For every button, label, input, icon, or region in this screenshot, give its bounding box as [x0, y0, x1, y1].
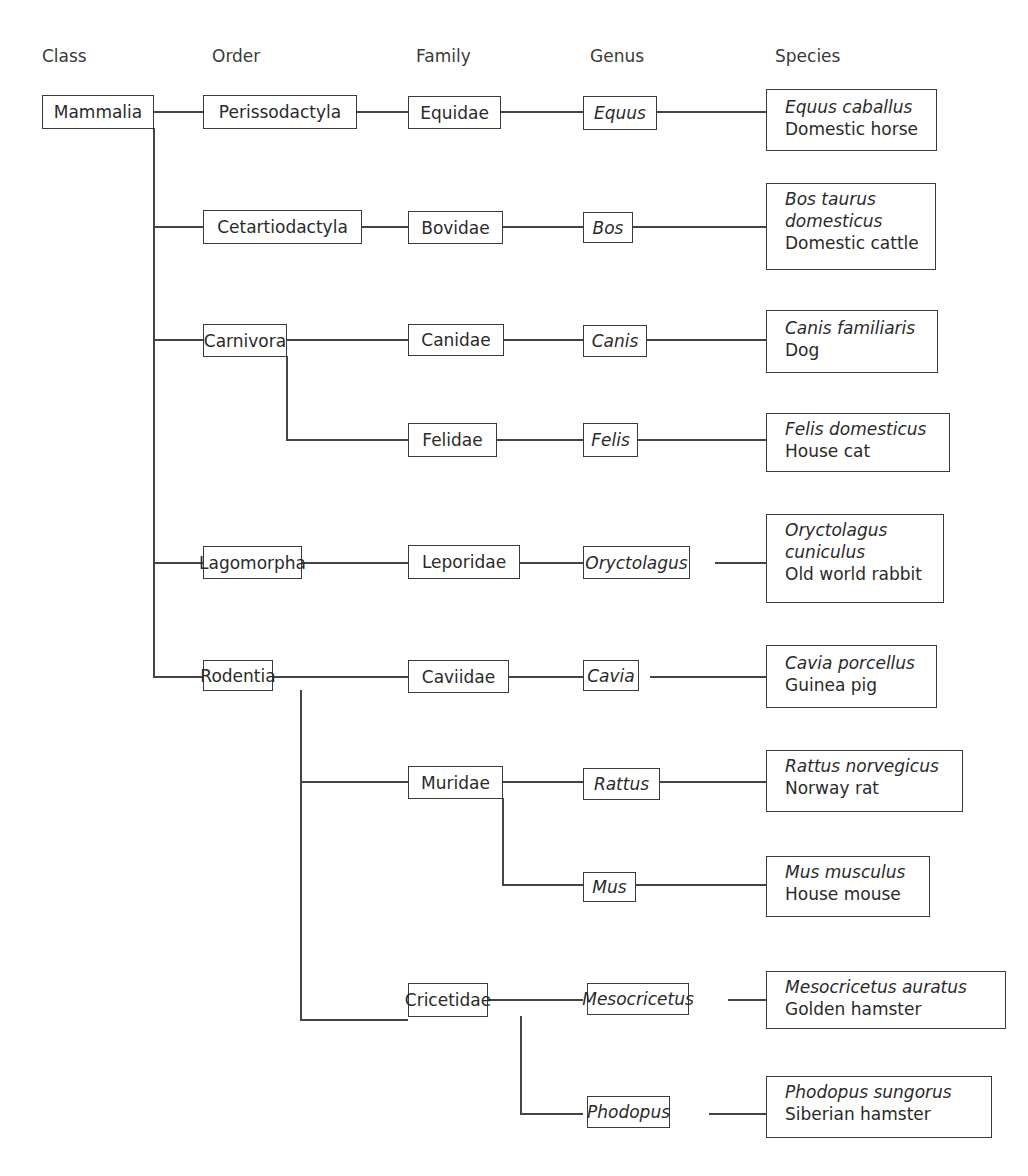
genus-node: Mus [583, 872, 636, 902]
connector [300, 781, 408, 783]
order-node: Cetartiodactyla [203, 210, 362, 244]
connector [502, 798, 504, 885]
connector [300, 1019, 408, 1021]
species-common-name: Dog [785, 339, 919, 361]
species-scientific-name: Equus caballus [785, 96, 918, 118]
connector [519, 562, 583, 564]
genus-label: Phodopus [587, 1101, 670, 1123]
species-node: Phodopus sungorus Siberian hamster [766, 1076, 992, 1138]
species-scientific-name: Bos taurus [785, 188, 917, 210]
species-scientific-name: Mus musculus [785, 861, 911, 883]
connector [635, 884, 766, 886]
header-order: Order [212, 46, 260, 66]
connector [301, 562, 408, 564]
family-node: Cricetidae [408, 983, 488, 1017]
class-node-mammalia: Mammalia [42, 95, 154, 129]
family-label: Caviidae [422, 666, 495, 688]
connector [300, 690, 302, 1020]
genus-label: Bos [593, 217, 624, 239]
order-label: Perissodactyla [219, 101, 341, 123]
family-node: Canidae [408, 324, 504, 356]
species-scientific-name: Canis familiaris [785, 317, 919, 339]
order-label: Carnivora [204, 330, 286, 352]
family-node: Felidae [408, 423, 497, 457]
family-node: Bovidae [408, 211, 503, 244]
connector [659, 781, 766, 783]
connector [656, 111, 766, 113]
genus-node: Equus [583, 96, 657, 130]
header-genus: Genus [590, 46, 644, 66]
family-label: Leporidae [422, 551, 506, 573]
genus-node: Phodopus [587, 1096, 670, 1128]
connector [503, 339, 583, 341]
connector [502, 781, 583, 783]
species-scientific-name: Phodopus sungorus [785, 1081, 973, 1103]
connector [520, 1113, 583, 1115]
genus-node: Oryctolagus [583, 546, 690, 579]
genus-node: Rattus [583, 768, 660, 800]
species-scientific-name: Cavia porcellus [785, 652, 918, 674]
genus-node: Bos [583, 212, 633, 243]
family-node: Equidae [408, 96, 501, 129]
connector [650, 676, 766, 678]
connector [153, 562, 203, 564]
family-node: Caviidae [408, 660, 509, 693]
connector [272, 676, 408, 678]
connector [728, 999, 766, 1001]
connector [153, 226, 203, 228]
species-scientific-name: Rattus norvegicus [785, 755, 944, 777]
species-common-name: Golden hamster [785, 998, 987, 1020]
family-label: Canidae [421, 329, 490, 351]
species-node: Rattus norvegicus Norway rat [766, 750, 963, 812]
species-common-name: Siberian hamster [785, 1103, 973, 1125]
species-scientific-name: Felis domesticus [785, 418, 931, 440]
genus-label: Oryctolagus [585, 552, 687, 574]
genus-label: Equus [594, 102, 646, 124]
family-label: Equidae [420, 102, 489, 124]
order-node: Carnivora [203, 324, 287, 357]
connector [361, 226, 408, 228]
species-node: Oryctolagus cuniculus Old world rabbit [766, 514, 944, 603]
species-node: Mus musculus House mouse [766, 856, 930, 917]
species-common-name: House mouse [785, 883, 911, 905]
species-common-name: Old world rabbit [785, 563, 925, 585]
species-node: Cavia porcellus Guinea pig [766, 645, 937, 708]
species-scientific-name: Oryctolagus [785, 519, 925, 541]
species-common-name: Domestic cattle [785, 232, 917, 254]
species-common-name: Domestic horse [785, 118, 918, 140]
species-node: Felis domesticus House cat [766, 413, 950, 472]
connector [520, 1016, 522, 1114]
family-node: Leporidae [408, 545, 520, 579]
species-scientific-name: Mesocricetus auratus [785, 976, 987, 998]
header-class: Class [42, 46, 87, 66]
family-label: Muridae [421, 772, 490, 794]
species-common-name: Guinea pig [785, 674, 918, 696]
header-family: Family [416, 46, 471, 66]
family-label: Felidae [422, 429, 482, 451]
genus-node: Canis [583, 325, 647, 357]
genus-label: Felis [591, 429, 630, 451]
connector [356, 111, 408, 113]
connector [286, 439, 408, 441]
connector [632, 226, 766, 228]
genus-node: Felis [583, 423, 638, 457]
order-label: Rodentia [200, 665, 275, 687]
species-scientific-name: domesticus [785, 210, 917, 232]
connector [709, 1113, 766, 1115]
connector [502, 226, 583, 228]
species-common-name: Norway rat [785, 777, 944, 799]
family-node: Muridae [408, 766, 503, 799]
species-scientific-name: cuniculus [785, 541, 925, 563]
order-label: Cetartiodactyla [217, 216, 348, 238]
connector [286, 356, 288, 440]
genus-node: Cavia [583, 660, 639, 691]
order-label: Lagomorpha [199, 552, 306, 574]
class-label: Mammalia [54, 101, 143, 123]
genus-label: Cavia [587, 665, 635, 687]
order-node: Perissodactyla [203, 95, 357, 129]
genus-label: Canis [592, 330, 639, 352]
connector-class-trunk [153, 128, 155, 678]
connector [502, 884, 583, 886]
genus-label: Mus [592, 876, 626, 898]
species-node: Bos taurus domesticus Domestic cattle [766, 183, 936, 270]
